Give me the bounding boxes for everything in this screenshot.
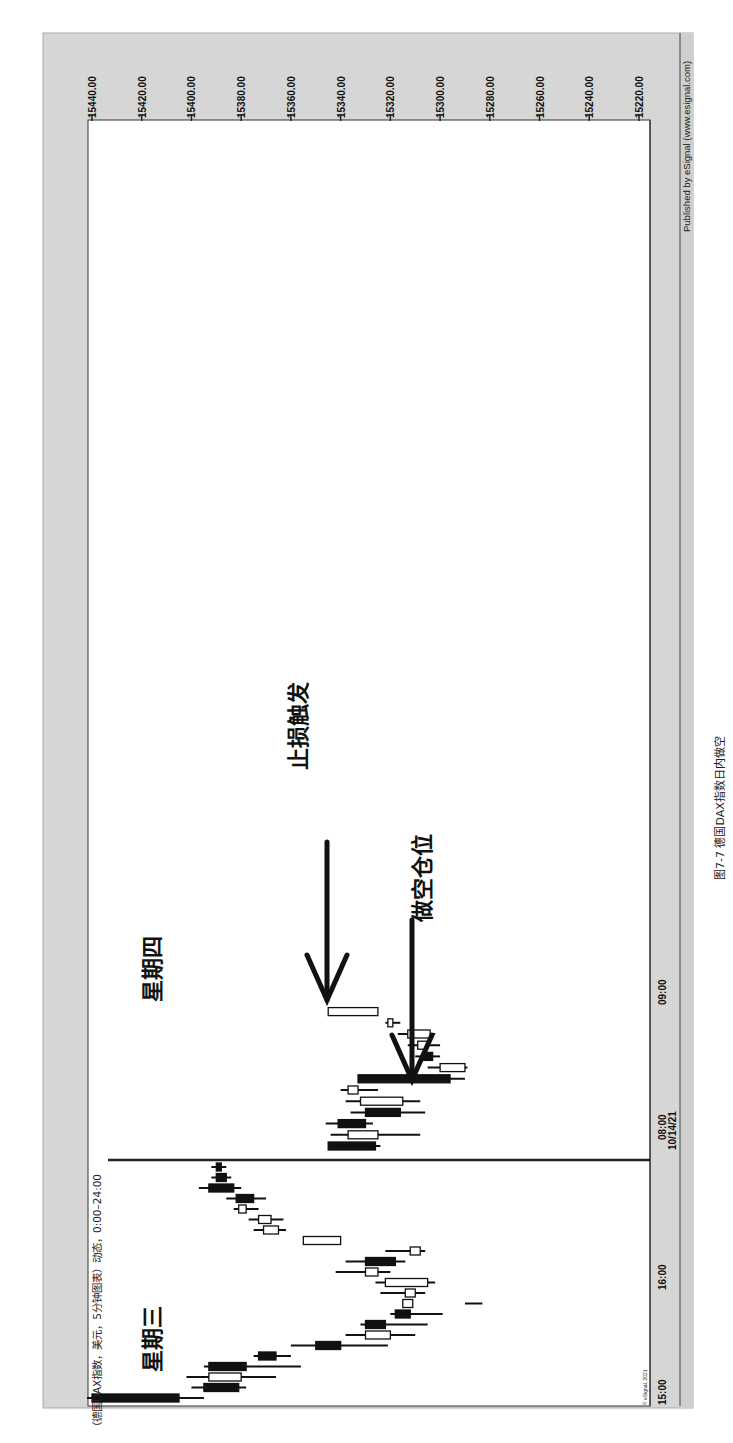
price-tick-label: 15380.00: [236, 76, 247, 118]
bearish-candle: [366, 1321, 386, 1329]
bearish-candle: [338, 1120, 365, 1128]
bullish-candle: [366, 1331, 391, 1339]
price-tick-label: 15320.00: [385, 76, 396, 118]
bullish-candle: [348, 1131, 378, 1139]
plot-area: [88, 120, 650, 1406]
bullish-candle: [264, 1226, 279, 1234]
bearish-candle: [395, 1310, 410, 1318]
bearish-candle: [366, 1108, 401, 1116]
bearish-candle: [236, 1195, 253, 1203]
price-tick-label: 15240.00: [584, 76, 595, 118]
price-tick-label: 15280.00: [485, 76, 496, 118]
copyright-label: © eSignal, 2021: [642, 1369, 648, 1405]
bullish-candle: [328, 1008, 378, 1016]
bearish-candle: [366, 1258, 396, 1266]
price-tick-label: 15420.00: [137, 76, 148, 118]
price-tick-label: 15440.00: [87, 76, 98, 118]
price-tick-label: 15220.00: [634, 76, 645, 118]
bullish-candle: [405, 1289, 415, 1297]
day-label-wednesday: 星期三: [140, 1306, 165, 1372]
price-tick-label: 15360.00: [286, 76, 297, 118]
bullish-candle: [410, 1247, 420, 1255]
bullish-candle: [259, 1216, 271, 1224]
bearish-candle: [358, 1075, 450, 1083]
date-label: 10/14/21: [667, 1111, 678, 1150]
bearish-candle: [259, 1352, 276, 1360]
price-tick-label: 15260.00: [535, 76, 546, 118]
bullish-candle: [303, 1237, 340, 1245]
bearish-candle: [209, 1184, 234, 1192]
day-label-thursday: 星期四: [140, 936, 165, 1002]
time-tick-label: 15:00: [657, 1379, 668, 1405]
bullish-candle: [366, 1268, 378, 1276]
bullish-candle: [361, 1097, 403, 1105]
time-tick-label: 16:00: [657, 1264, 668, 1290]
bearish-candle: [316, 1342, 341, 1350]
bullish-candle: [209, 1373, 241, 1381]
bullish-candle: [388, 1019, 393, 1027]
bearish-candle: [216, 1163, 221, 1171]
price-tick-label: 15300.00: [435, 76, 446, 118]
bullish-candle: [385, 1279, 427, 1287]
annotation-short-position: 做空仓位: [410, 834, 435, 923]
bullish-candle: [440, 1064, 465, 1072]
dax-rotated-candlestick-chart: 15440.0015420.0015400.0015380.0015360.00…: [0, 0, 733, 1443]
bullish-candle: [348, 1086, 358, 1094]
published-by-label: Published by eSignal (www.esignal.com): [681, 61, 692, 232]
bearish-candle: [204, 1384, 239, 1392]
chart-title: （德国DAX指数，美元，5分钟图表）动态，0:00–24:00: [91, 1174, 103, 1432]
bullish-candle: [403, 1300, 413, 1308]
time-tick-label: 09:00: [657, 979, 668, 1005]
bearish-candle: [92, 1394, 179, 1402]
price-tick-label: 15400.00: [186, 76, 197, 118]
bullish-candle: [239, 1205, 246, 1213]
bearish-candle: [216, 1174, 226, 1182]
bearish-candle: [209, 1363, 246, 1371]
figure-caption: 图7-7 德国DAX指数日内做空: [713, 736, 727, 880]
annotation-stop-triggered: 止损触发: [286, 681, 311, 770]
price-tick-label: 15340.00: [336, 76, 347, 118]
published-strip: [680, 33, 693, 1408]
bearish-candle: [328, 1142, 375, 1150]
